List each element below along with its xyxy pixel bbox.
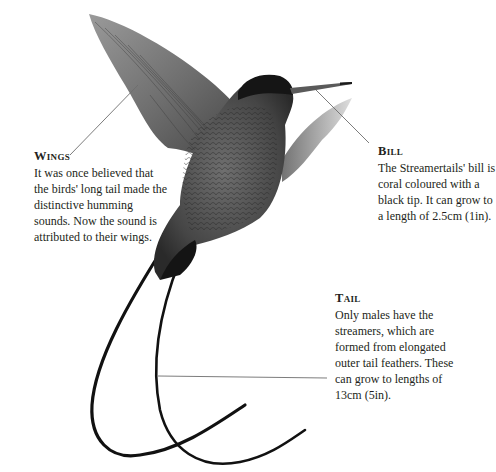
wings-leader-line [70,85,138,155]
wings-annotation: Wings It was once believed that the bird… [34,148,169,245]
bill-annotation: Bill The Streamertails' bill is coral co… [378,143,496,224]
tail-description: Only males have the streamers, which are… [335,307,455,403]
far-wing [282,98,352,182]
tail-leader-line [158,376,327,378]
wings-heading: Wings [34,148,169,164]
tail-heading: Tail [335,290,455,306]
tail-annotation: Tail Only males have the streamers, whic… [335,290,455,403]
tail-streamers [92,245,305,464]
wings-description: It was once believed that the birds' lon… [34,165,169,245]
bill-heading: Bill [378,143,496,159]
bill-description: The Streamertails' bill is coral coloure… [378,160,496,224]
